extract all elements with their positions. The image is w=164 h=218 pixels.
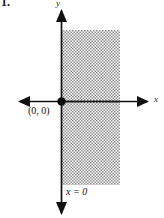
x-axis-right-arrowhead xyxy=(137,96,149,107)
y-axis-top-arrowhead xyxy=(56,9,67,22)
boundary-line-label: x = 0 xyxy=(66,186,87,197)
shaded-region xyxy=(61,30,120,185)
figure-container: 1. y x (0, 0) x = 0 xyxy=(0,0,164,218)
x-axis-label: x xyxy=(154,94,158,104)
origin-point-label: (0, 0) xyxy=(28,105,50,116)
y-axis-label: y xyxy=(56,0,60,8)
y-axis-bottom-arrowhead xyxy=(56,202,67,215)
origin-point-marker xyxy=(57,97,65,105)
